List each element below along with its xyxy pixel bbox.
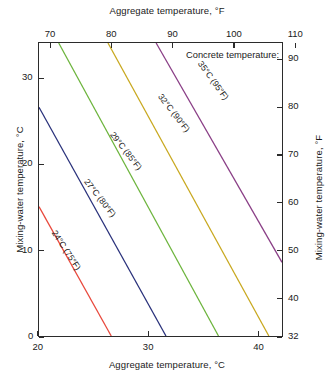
xtick-bottom-30: [148, 331, 149, 336]
yticklabel-right-60: 60: [288, 196, 299, 207]
xticklabel-bottom-30: 30: [143, 341, 154, 352]
yticklabel-right-80: 80: [288, 100, 299, 111]
top-axis-title: Aggregate temperature, °F: [0, 5, 334, 16]
yticklabel-left-20: 20: [22, 157, 33, 168]
series-line-27c: [39, 107, 166, 336]
series-line-32c: [108, 43, 269, 336]
plot-area: [38, 42, 283, 337]
yticklabel-right-40: 40: [288, 292, 299, 303]
yticklabel-right-90: 90: [288, 52, 299, 63]
series-line-35c: [156, 43, 282, 262]
ytick-left-0: [39, 336, 44, 337]
yticklabel-right-70: 70: [288, 148, 299, 159]
xticklabel-top-100: 100: [226, 28, 242, 39]
xtick-bottom-40: [258, 331, 259, 336]
xtick-top-80: [111, 43, 112, 48]
ytick-right-60: [277, 202, 282, 203]
xticklabel-bottom-20: 20: [33, 341, 44, 352]
legend-title: Concrete temperature:: [186, 50, 279, 60]
xticklabel-top-110: 110: [288, 28, 303, 39]
ytick-right-40: [277, 298, 282, 299]
ytick-right-70: [277, 154, 282, 155]
bottom-axis-title: Aggregate temperature, °C: [0, 359, 334, 370]
yticklabel-left-30: 30: [22, 71, 33, 82]
xticklabel-top-80: 80: [106, 28, 117, 39]
right-axis-title: Mixing-water temperature, °F: [313, 123, 324, 273]
ytick-right-80: [277, 107, 282, 108]
xticklabel-top-90: 90: [167, 28, 178, 39]
chart-lines-svg: [39, 43, 282, 336]
yticklabel-left-0: 0: [28, 330, 33, 341]
chart-figure: Aggregate temperature, °F Aggregate temp…: [0, 0, 334, 376]
ytick-left-20: [39, 164, 44, 165]
xtick-top-90: [172, 43, 173, 48]
ytick-left-30: [39, 78, 44, 79]
left-axis-title: Mixing-water temperature, °C: [14, 115, 25, 265]
ytick-right-50: [277, 250, 282, 251]
xtick-top-110: [295, 43, 296, 48]
yticklabel-right-32: 32: [288, 330, 299, 341]
xticklabel-top-70: 70: [45, 28, 56, 39]
ytick-right-32: [277, 336, 282, 337]
xticklabel-bottom-40: 40: [253, 341, 264, 352]
yticklabel-right-50: 50: [288, 244, 299, 255]
xtick-top-100: [233, 43, 234, 48]
yticklabel-left-10: 10: [22, 244, 33, 255]
series-line-29c: [59, 43, 219, 336]
xtick-bottom-20: [37, 331, 38, 336]
ytick-left-10: [39, 250, 44, 251]
xtick-top-70: [50, 43, 51, 48]
